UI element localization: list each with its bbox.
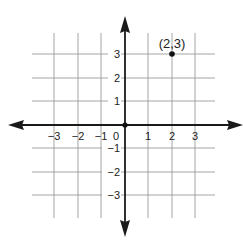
x-tick-labels: −3 −2 −1 0 1 2 3 bbox=[48, 130, 198, 142]
data-point bbox=[169, 51, 175, 57]
y-tick-label: 1 bbox=[114, 95, 120, 107]
x-tick-label: −3 bbox=[48, 130, 61, 142]
x-tick-label: −1 bbox=[95, 130, 108, 142]
x-tick-label: 3 bbox=[192, 130, 198, 142]
coordinate-plane: −3 −2 −1 0 1 2 3 3 2 1 −1 −2 −3 (2,3) bbox=[0, 0, 243, 250]
x-axis-left-arrow-icon bbox=[8, 120, 24, 130]
x-tick-label: 1 bbox=[145, 130, 151, 142]
x-axis-right-arrow-icon bbox=[227, 120, 243, 130]
y-tick-label: −2 bbox=[107, 166, 120, 178]
y-tick-label: −1 bbox=[107, 142, 120, 154]
y-tick-label: 2 bbox=[114, 72, 120, 84]
y-axis-down-arrow-icon bbox=[120, 220, 130, 237]
y-axis-up-arrow-icon bbox=[120, 16, 130, 33]
x-tick-label: −2 bbox=[72, 130, 85, 142]
x-tick-label: 2 bbox=[169, 130, 175, 142]
y-tick-label: −3 bbox=[107, 189, 120, 201]
data-point-label: (2,3) bbox=[159, 36, 186, 51]
origin-dot bbox=[122, 122, 127, 127]
origin-label: 0 bbox=[113, 130, 119, 142]
y-tick-label: 3 bbox=[114, 48, 120, 60]
